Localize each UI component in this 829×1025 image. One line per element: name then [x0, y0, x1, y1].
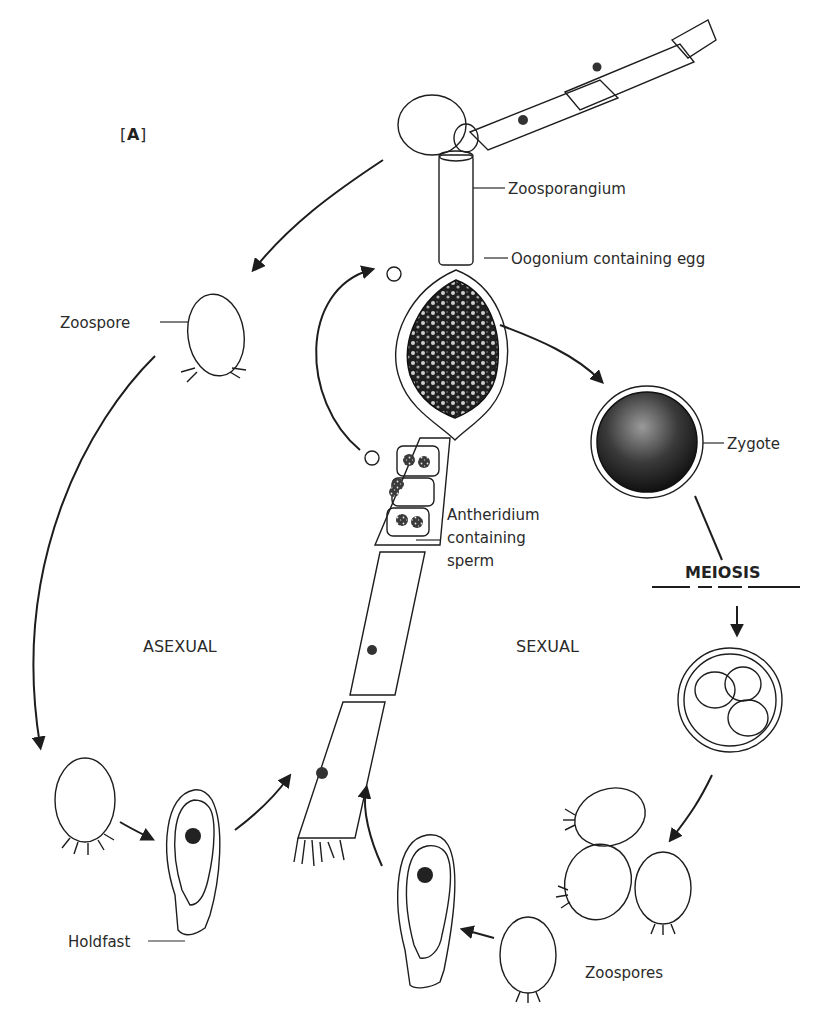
meiosis-connector: [695, 496, 722, 560]
germling-right: [365, 790, 556, 1003]
nucleus-icon: [518, 115, 528, 125]
sperm: [418, 456, 430, 468]
holdfast-label: Holdfast: [68, 933, 130, 951]
sperm: [396, 514, 408, 526]
upper-filament: [398, 20, 716, 155]
zoospores-cluster: Zoospores: [556, 778, 691, 982]
panel-label: [ A ]: [120, 125, 146, 144]
main-filament: [294, 438, 450, 866]
zoosporangium-label: Zoosporangium: [508, 180, 626, 198]
zoospore-label: Zoospore: [60, 314, 130, 332]
asexual-path: Zoospore ASEXUAL SEXUAL Holdfast: [34, 160, 579, 951]
nucleus-icon: [593, 63, 602, 72]
arrow-to-zoospores-icon: [672, 775, 712, 838]
vegetative-cell: [350, 552, 425, 695]
sperm-cell: [365, 451, 379, 465]
arrow-up-icon: [365, 790, 382, 866]
long-curved-arrow-icon: [34, 356, 155, 745]
meiosis-block: MEIOSIS: [652, 496, 800, 632]
nucleus-icon: [367, 645, 377, 655]
arrow-right-icon: [120, 822, 150, 838]
oogonium-label: Oogonium containing egg: [511, 250, 705, 268]
antheridium-cells: [387, 446, 439, 536]
zoospores-label: Zoospores: [585, 964, 663, 982]
curved-arrow-icon: [316, 270, 370, 450]
arrow-to-zoospore-icon: [255, 160, 383, 268]
panel-label-bracket-open: [: [120, 125, 126, 144]
egg: [407, 280, 498, 418]
nucleus-icon: [185, 828, 201, 844]
svg-text:Antheridium: Antheridium: [447, 506, 540, 524]
panel-label-letter: A: [127, 125, 140, 144]
arrow-to-zygote-icon: [500, 325, 600, 380]
nucleus-icon: [417, 867, 433, 883]
zoospore: [183, 291, 250, 380]
antheridium-label: Antheridium containing sperm: [447, 506, 540, 570]
meiosis-label: MEIOSIS: [685, 563, 760, 582]
zygote: Zygote: [591, 386, 780, 498]
sperm: [403, 454, 415, 466]
asexual-label: ASEXUAL: [143, 637, 217, 656]
zoosporangium: Zoosporangium: [439, 151, 626, 265]
sperm: [389, 487, 399, 497]
svg-text:sperm: sperm: [447, 552, 494, 570]
algal-life-cycle-diagram: [ A ] Zoosporangium Oogonium containing …: [0, 0, 829, 1025]
arrow-left-icon: [465, 930, 494, 938]
settling-zoospore: [500, 917, 556, 993]
rhizoid-holdfast: [294, 838, 344, 866]
svg-text:containing: containing: [447, 529, 526, 547]
settled-zoospore: [55, 758, 115, 842]
sexual-label: SEXUAL: [516, 637, 579, 656]
meiosis-cyst: [678, 648, 782, 752]
sperm: [411, 516, 423, 528]
sperm-cell: [387, 267, 401, 281]
arrow-to-filament-icon: [235, 778, 288, 830]
basal-cell: [298, 702, 385, 838]
panel-label-bracket-close: ]: [140, 125, 146, 144]
nucleus-icon: [316, 767, 328, 779]
zygote-label: Zygote: [727, 435, 780, 453]
fertilization-arrow: [316, 267, 401, 465]
